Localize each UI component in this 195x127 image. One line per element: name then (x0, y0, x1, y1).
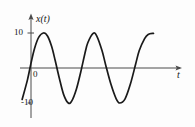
y-tick-label-positive-ten: 10 (14, 28, 23, 37)
y-tick-label-negative-ten: -10 (21, 98, 33, 107)
x-axis (20, 65, 182, 70)
x-axis-label: t (177, 70, 180, 80)
origin-label: 0 (33, 70, 38, 79)
plot-canvas (0, 0, 195, 127)
sinusoid-figure: x(t) t 10 0 -10 (0, 0, 195, 127)
y-axis-label: x(t) (36, 14, 50, 24)
